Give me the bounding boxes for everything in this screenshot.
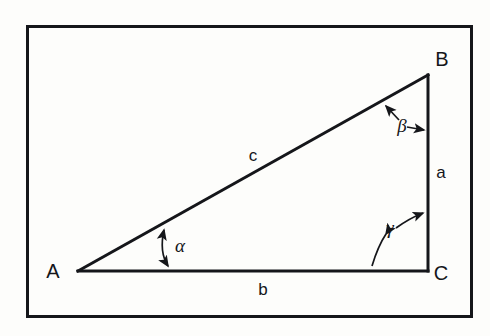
angle-label-beta: β — [396, 115, 407, 136]
vertex-label-B: B — [435, 48, 448, 70]
vertex-label-A: A — [46, 260, 60, 282]
gamma-angle-arc — [372, 234, 386, 266]
angle-label-alpha: α — [175, 235, 186, 256]
side-label-a: a — [436, 163, 446, 182]
angle-label-gamma: γ — [386, 217, 394, 238]
figure-page: A B C a b c α β γ — [0, 0, 490, 336]
vertex-label-C: C — [434, 262, 448, 284]
side-c-line — [78, 75, 428, 271]
alpha-angle-arc — [162, 230, 168, 266]
figure-border — [28, 27, 472, 317]
triangle-diagram: A B C a b c α β γ — [0, 0, 490, 336]
side-label-b: b — [258, 280, 267, 299]
gamma-angle-arc-upper — [396, 213, 423, 228]
beta-arrow-to-side-a — [407, 127, 424, 130]
side-label-c: c — [249, 146, 258, 165]
